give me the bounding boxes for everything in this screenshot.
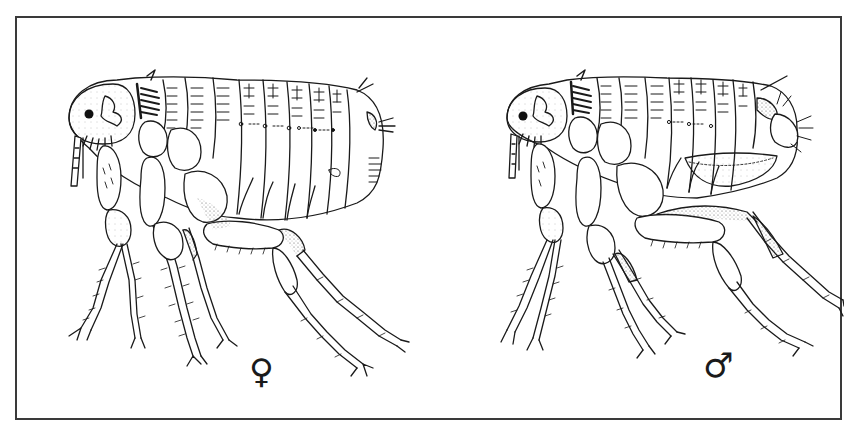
male-flea-figure: male (457, 18, 844, 418)
figure-frame: female (15, 16, 842, 420)
female-flea-drawing (17, 18, 427, 418)
male-flea-drawing (457, 18, 844, 418)
male-symbol: ♂ (703, 348, 733, 382)
female-flea-figure: female (17, 18, 427, 418)
female-symbol: ♀ (249, 354, 274, 388)
